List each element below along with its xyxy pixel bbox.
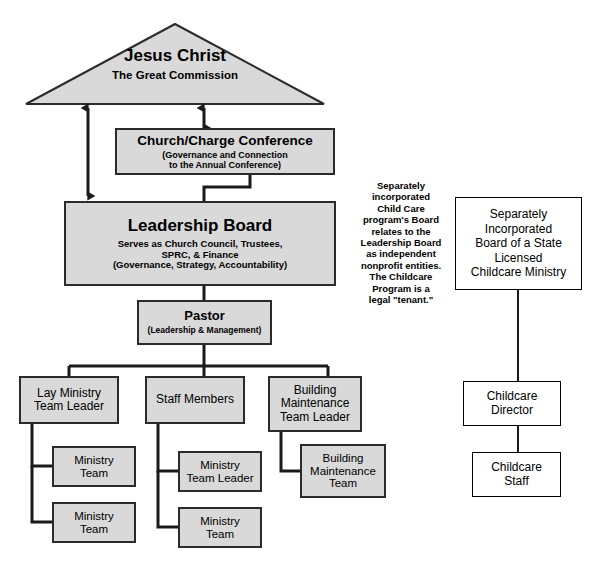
building-team-line3: Team	[329, 477, 357, 490]
church-charge-conference-title: Church/Charge Conference	[137, 133, 313, 148]
connector-building-leader-to-team	[281, 432, 300, 471]
node-childcare-director[interactable]: Childcare Director	[463, 381, 561, 426]
node-childcare-board[interactable]: Separately Incorporated Board of a State…	[455, 197, 582, 290]
childcare-director-line2: Director	[491, 404, 533, 417]
building-leader-line1: Building	[294, 384, 337, 397]
ministry-team-leader-line2: Team Leader	[186, 472, 253, 485]
node-ministry-team-leader[interactable]: Ministry Team Leader	[178, 451, 262, 492]
ministry-team-1-line1: Ministry	[74, 454, 114, 467]
building-team-line2: Maintenance	[310, 465, 376, 478]
node-pastor[interactable]: Pastor (Leadership & Management)	[137, 300, 272, 345]
triangle-subtitle: The Great Commission	[95, 69, 255, 82]
childcare-staff-line1: Childcare	[491, 461, 542, 474]
node-staff-members[interactable]: Staff Members	[145, 376, 245, 424]
node-building-maintenance-team[interactable]: Building Maintenance Team	[300, 444, 386, 498]
church-charge-conference-sub1: (Governance and Connection	[162, 150, 288, 160]
connector-lay-to-ministry-team-2	[32, 466, 52, 522]
ministry-team-2-line1: Ministry	[74, 510, 114, 523]
pastor-sub1: (Leadership & Management)	[148, 326, 262, 336]
building-leader-line3: Team Leader	[280, 411, 350, 424]
org-chart-diagram: Jesus Christ The Great Commission Church…	[0, 0, 603, 569]
node-building-maintenance-team-leader[interactable]: Building Maintenance Team Leader	[268, 376, 362, 432]
ministry-team-2-line2: Team	[80, 523, 108, 536]
childcare-board-line3: Board of a State	[475, 236, 562, 251]
ministry-team-leader-line1: Ministry	[200, 459, 240, 472]
node-ministry-team-1[interactable]: Ministry Team	[52, 446, 136, 487]
childcare-board-line1: Separately	[490, 207, 547, 222]
node-childcare-staff[interactable]: Childcare Staff	[472, 452, 561, 497]
ministry-team-3-line1: Ministry	[200, 515, 240, 528]
childcare-note: Separately incorporated Child Care progr…	[345, 180, 457, 305]
childcare-staff-line2: Staff	[504, 475, 528, 488]
triangle-title: Jesus Christ	[95, 46, 255, 66]
pastor-title: Pastor	[184, 309, 224, 324]
ministry-team-3-line2: Team	[206, 528, 234, 541]
connector-staff-to-ministry-team-leader	[158, 424, 178, 471]
lay-ministry-line2: Team Leader	[34, 400, 104, 413]
connector-conference-to-board	[204, 175, 250, 201]
ministry-team-1-line2: Team	[80, 467, 108, 480]
childcare-board-line5: Childcare Ministry	[471, 265, 566, 280]
childcare-director-line1: Childcare	[487, 390, 538, 403]
page-artifact	[6, 556, 9, 563]
childcare-board-line4: Licensed	[494, 251, 542, 266]
connector-staff-to-ministry-team-3	[158, 471, 178, 527]
node-church-charge-conference[interactable]: Church/Charge Conference (Governance and…	[115, 128, 335, 175]
staff-members-line1: Staff Members	[156, 393, 234, 406]
building-leader-line2: Maintenance	[281, 397, 350, 410]
triangle-label: Jesus Christ The Great Commission	[95, 46, 255, 82]
connector-lay-to-ministry-team-1	[32, 424, 52, 466]
church-charge-conference-sub2: to the Annual Conference)	[169, 160, 281, 170]
node-lay-ministry-team-leader[interactable]: Lay Ministry Team Leader	[19, 376, 119, 424]
node-leadership-board[interactable]: Leadership Board Serves as Church Counci…	[64, 201, 336, 286]
lay-ministry-line1: Lay Ministry	[37, 387, 101, 400]
building-team-line1: Building	[323, 452, 364, 465]
node-ministry-team-2[interactable]: Ministry Team	[52, 502, 136, 543]
node-ministry-team-3[interactable]: Ministry Team	[178, 507, 262, 548]
leadership-board-title: Leadership Board	[128, 216, 273, 235]
childcare-board-line2: Incorporated	[485, 222, 552, 237]
leadership-board-sub3: (Governance, Strategy, Accountability)	[113, 260, 287, 271]
